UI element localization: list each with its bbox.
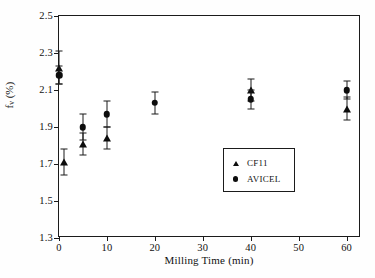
y-axis-title-base: f: [3, 105, 15, 109]
x-tick-label: 0: [56, 243, 61, 254]
data-point: [56, 72, 63, 79]
series-avicel: [59, 16, 359, 236]
error-bar-cap: [56, 84, 63, 85]
circle-marker-icon: [231, 176, 240, 182]
legend-item-avicel: AVICEL: [231, 174, 281, 184]
x-tick-label: 60: [341, 243, 352, 254]
error-bar-cap: [343, 99, 350, 100]
x-tick-label: 40: [245, 243, 256, 254]
x-tick-label: 10: [101, 243, 112, 254]
x-tick: [107, 236, 108, 241]
x-tick-label: 20: [149, 243, 160, 254]
y-tick-label: 1.3: [39, 233, 53, 244]
data-point: [80, 124, 87, 131]
triangle-marker-icon: [231, 161, 240, 166]
error-bar-cap: [247, 90, 254, 91]
data-point: [343, 87, 350, 94]
error-bar-cap: [343, 80, 350, 81]
y-axis-title-unit: (%): [3, 82, 15, 101]
x-tick: [347, 236, 348, 241]
legend-label-cf11: CF11: [247, 158, 268, 168]
x-tick: [59, 236, 60, 241]
data-point: [247, 96, 254, 103]
error-bar-cap: [79, 139, 86, 140]
error-bar-cap: [151, 91, 158, 92]
y-tick-label: 1.5: [39, 196, 53, 207]
y-tick-label: 1.7: [39, 159, 53, 170]
error-bar-cap: [103, 101, 110, 102]
error-bar-cap: [103, 127, 110, 128]
x-tick-label: 50: [293, 243, 304, 254]
x-tick-label: 30: [197, 243, 208, 254]
x-tick: [251, 236, 252, 241]
y-tick-label: 2.3: [39, 48, 53, 59]
circle-marker-icon: [104, 111, 111, 118]
circle-marker-icon: [152, 100, 159, 107]
legend-label-avicel: AVICEL: [247, 174, 281, 184]
error-bar-cap: [151, 114, 158, 115]
circle-marker-icon: [343, 87, 350, 94]
x-tick: [155, 236, 156, 241]
y-axis-title-subscript: v: [7, 101, 16, 105]
circle-marker-icon: [56, 72, 63, 79]
circle-marker-icon: [247, 96, 254, 103]
y-tick-label: 2.1: [39, 85, 53, 96]
y-tick-label: 1.9: [39, 122, 53, 133]
chart-legend: CF11 AVICEL: [223, 148, 295, 192]
circle-marker-icon: [80, 124, 87, 131]
error-bar-cap: [79, 114, 86, 115]
x-tick: [299, 236, 300, 241]
error-bar-cap: [247, 108, 254, 109]
data-point: [104, 111, 111, 118]
y-tick-label: 2.5: [39, 11, 53, 22]
x-axis-title: Milling Time (min): [58, 254, 360, 266]
legend-item-cf11: CF11: [231, 158, 268, 168]
x-tick: [203, 236, 204, 241]
plot-area: 1.31.51.71.92.12.32.5 0102030405060: [58, 15, 360, 237]
error-bar-cap: [56, 65, 63, 66]
y-axis-title: fv (%): [2, 95, 16, 108]
data-point: [152, 100, 159, 107]
chart-figure: 1.31.51.71.92.12.32.5 0102030405060 fv (…: [0, 0, 375, 278]
